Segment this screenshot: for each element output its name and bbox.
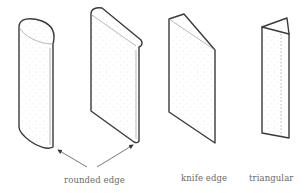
triangular-prism-shape bbox=[262, 18, 289, 138]
label-triangular: triangular bbox=[249, 173, 294, 183]
arrow-to-cylinder-edge bbox=[58, 150, 87, 167]
rounded-cylinder-shape bbox=[19, 19, 54, 148]
edge-types-diagram bbox=[0, 0, 304, 193]
rounded-slab-shape bbox=[91, 8, 142, 143]
label-knife-edge: knife edge bbox=[181, 173, 227, 183]
knife-edge-shape bbox=[169, 14, 215, 143]
arrow-to-slab-edge bbox=[97, 145, 133, 167]
label-rounded-edge: rounded edge bbox=[64, 175, 125, 185]
